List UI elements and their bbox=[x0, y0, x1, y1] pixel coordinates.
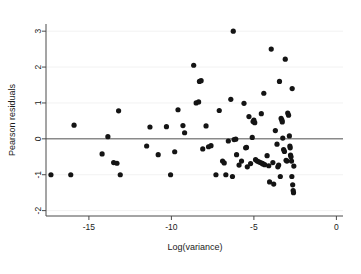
data-point bbox=[290, 86, 295, 91]
data-point bbox=[105, 134, 110, 139]
data-point bbox=[265, 153, 270, 158]
data-point bbox=[250, 135, 255, 140]
data-point bbox=[280, 136, 285, 141]
data-point bbox=[147, 124, 152, 129]
data-point bbox=[239, 158, 244, 163]
data-point bbox=[289, 158, 294, 163]
data-point bbox=[259, 111, 264, 116]
data-point bbox=[172, 149, 177, 154]
data-point bbox=[100, 151, 105, 156]
data-point bbox=[291, 190, 296, 195]
figure-background bbox=[0, 0, 361, 274]
data-point bbox=[266, 163, 271, 168]
data-point bbox=[287, 133, 292, 138]
data-point bbox=[252, 120, 257, 125]
data-point bbox=[248, 161, 253, 166]
data-point bbox=[226, 138, 231, 143]
data-point bbox=[233, 137, 238, 142]
x-tick-label: -5 bbox=[250, 222, 258, 232]
y-tick-label: 2 bbox=[33, 64, 43, 69]
x-tick-label: -15 bbox=[83, 222, 96, 232]
data-point bbox=[48, 172, 53, 177]
data-point bbox=[277, 79, 282, 84]
y-tick-label: 0 bbox=[33, 136, 43, 141]
data-point bbox=[241, 101, 246, 106]
data-point bbox=[114, 161, 119, 166]
data-point bbox=[282, 149, 287, 154]
data-point bbox=[284, 158, 289, 163]
y-tick-label: 3 bbox=[33, 29, 43, 34]
data-point bbox=[269, 47, 274, 52]
data-point bbox=[234, 152, 239, 157]
data-point bbox=[286, 113, 291, 118]
data-point bbox=[217, 108, 222, 113]
data-point bbox=[291, 164, 296, 169]
x-tick-label: 0 bbox=[334, 222, 339, 232]
data-point bbox=[203, 123, 208, 128]
data-point bbox=[276, 162, 281, 167]
plot-canvas: -15-10-50 -2-10123 Log(variance) Pearson… bbox=[0, 0, 361, 274]
data-point bbox=[199, 78, 204, 83]
data-point bbox=[230, 174, 235, 179]
data-point bbox=[196, 99, 201, 104]
data-point bbox=[180, 123, 185, 128]
data-point bbox=[223, 172, 228, 177]
data-point bbox=[270, 160, 275, 165]
data-point bbox=[246, 114, 251, 119]
data-point bbox=[118, 172, 123, 177]
scatter-plot-figure: -15-10-50 -2-10123 Log(variance) Pearson… bbox=[0, 0, 361, 274]
data-point bbox=[68, 172, 73, 177]
data-point bbox=[273, 128, 278, 133]
x-tick-label: -10 bbox=[165, 222, 178, 232]
data-point bbox=[289, 174, 294, 179]
y-axis-title: Pearson residuals bbox=[7, 83, 17, 156]
data-point bbox=[200, 146, 205, 151]
y-tick-label: -1 bbox=[33, 171, 43, 179]
data-point bbox=[182, 130, 187, 135]
data-point bbox=[191, 63, 196, 68]
data-point bbox=[168, 172, 173, 177]
data-point bbox=[283, 57, 288, 62]
data-point bbox=[288, 145, 293, 150]
data-point bbox=[116, 108, 121, 113]
data-point bbox=[278, 174, 283, 179]
data-point bbox=[164, 124, 169, 129]
data-point bbox=[261, 91, 266, 96]
y-tick-label: 1 bbox=[33, 100, 43, 105]
data-point bbox=[244, 145, 249, 150]
data-point bbox=[213, 172, 218, 177]
data-point bbox=[271, 181, 276, 186]
x-axis-title: Log(variance) bbox=[167, 242, 222, 252]
data-point bbox=[290, 182, 295, 187]
data-point bbox=[156, 152, 161, 157]
data-point bbox=[280, 119, 285, 124]
data-point bbox=[208, 143, 213, 148]
data-point bbox=[175, 107, 180, 112]
data-point bbox=[228, 97, 233, 102]
data-point bbox=[222, 160, 227, 165]
y-tick-label: -2 bbox=[33, 207, 43, 215]
data-point bbox=[231, 29, 236, 34]
data-point bbox=[144, 143, 149, 148]
data-point bbox=[71, 123, 76, 128]
data-point bbox=[274, 142, 279, 147]
